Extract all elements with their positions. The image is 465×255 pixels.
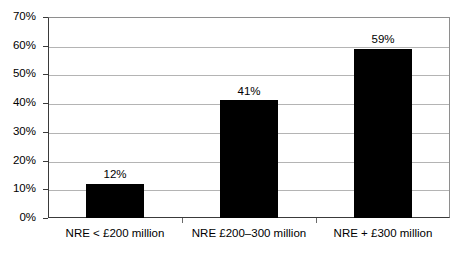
y-axis-tick-label: 20% <box>0 155 36 167</box>
bar[interactable]: 41% <box>220 100 278 218</box>
x-axis-labels: NRE < £200 millionNRE £200–300 millionNR… <box>48 227 450 240</box>
x-axis-category-label: NRE £200–300 million <box>182 227 316 240</box>
bar[interactable]: 12% <box>86 184 144 218</box>
x-axis-category-label: NRE + £300 million <box>316 227 450 240</box>
y-axis-tick-label: 30% <box>0 126 36 138</box>
bar-value-label: 41% <box>237 86 260 98</box>
bars-group: 12%41%59% <box>48 17 450 218</box>
x-axis-tick-mark <box>182 218 183 223</box>
y-axis-tick-label: 10% <box>0 183 36 195</box>
bar-slot: 59% <box>316 17 450 218</box>
bar[interactable]: 59% <box>354 49 412 218</box>
x-axis-category-label: NRE < £200 million <box>48 227 182 240</box>
bar-value-label: 12% <box>103 169 126 181</box>
y-axis-tick-label: 40% <box>0 97 36 109</box>
bar-value-label: 59% <box>371 34 394 46</box>
bar-slot: 12% <box>48 17 182 218</box>
y-axis-tick-label: 70% <box>0 11 36 23</box>
y-axis: 0%10%20%30%40%50%60%70% <box>0 17 48 218</box>
y-axis-tick-mark <box>43 218 48 219</box>
bar-slot: 41% <box>182 17 316 218</box>
bar-chart: 0%10%20%30%40%50%60%70% 12%41%59% NRE < … <box>0 0 465 255</box>
y-axis-tick-label: 0% <box>0 212 36 224</box>
x-axis-tick-mark <box>316 218 317 223</box>
y-axis-tick-label: 60% <box>0 40 36 52</box>
y-axis-tick-label: 50% <box>0 68 36 80</box>
